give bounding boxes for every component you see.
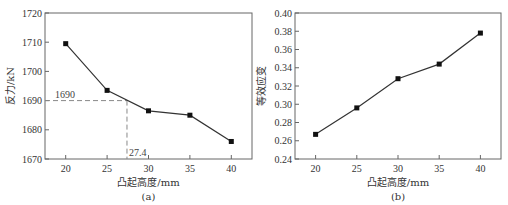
panel-a-x-tick-label: 35	[185, 163, 195, 174]
panel-b-y-tick-label: 0.32	[275, 81, 293, 92]
panel-a-series-line	[66, 44, 232, 142]
panel-b-data-point	[354, 105, 359, 110]
panel-a-y-tick-label: 1670	[22, 154, 42, 165]
panel-a-reference-hline-label: 1690	[55, 89, 75, 100]
figure: 1670168016901700171017202025303540169027…	[0, 0, 508, 205]
panel-a-data-point	[63, 41, 68, 46]
panel-b-series-line	[316, 33, 481, 134]
panel-b-y-tick-label: 0.26	[275, 135, 293, 146]
panel-b-data-point	[478, 31, 483, 36]
panel-b-panel-label: (b)	[391, 191, 405, 202]
panel-b-data-point	[313, 132, 318, 137]
panel-b-data-point	[396, 76, 401, 81]
panel-a-x-tick-label: 25	[102, 163, 112, 174]
panel-a-plot-frame	[45, 13, 252, 159]
panel-a-y-tick-label: 1700	[22, 66, 42, 77]
panel-b-y-tick-label: 0.38	[275, 26, 293, 37]
panel-b-plot-frame	[295, 13, 501, 159]
panel-a-data-point	[229, 139, 234, 144]
panel-b-x-axis-title: 凸起高度/mm	[367, 176, 430, 188]
panel-b-y-tick-label: 0.40	[275, 8, 293, 19]
panel-b-data-point	[437, 62, 442, 67]
panel-a-reference-vline-label: 27.4	[129, 147, 147, 158]
panel-a-data-point	[187, 113, 192, 118]
panel-a-x-tick-label: 20	[61, 163, 71, 174]
panel-b-y-axis-title: 等效应变	[255, 66, 267, 106]
panel-a-y-tick-label: 1690	[22, 95, 42, 106]
panel-a-y-axis-title: 反力/kN	[4, 67, 16, 105]
panel-a-y-tick-label: 1720	[22, 8, 42, 19]
panel-a-y-tick-label: 1710	[22, 37, 42, 48]
panel-a-x-axis-title: 凸起高度/mm	[117, 176, 180, 188]
panel-a-x-tick-label: 30	[144, 163, 154, 174]
panel-b-y-tick-label: 0.34	[275, 62, 293, 73]
panel-a-data-point	[105, 88, 110, 93]
panel-b-y-tick-label: 0.36	[275, 44, 293, 55]
panel-b-x-tick-label: 35	[434, 163, 444, 174]
panel-a-y-tick-label: 1680	[22, 124, 42, 135]
panel-b-y-tick-label: 0.28	[275, 117, 293, 128]
panel-b-x-tick-label: 25	[352, 163, 362, 174]
panel-b-y-tick-label: 0.24	[275, 154, 293, 165]
panel-b-y-tick-label: 0.30	[275, 99, 293, 110]
panel-b-x-tick-label: 30	[393, 163, 403, 174]
panel-a-data-point	[146, 108, 151, 113]
panel-b-x-tick-label: 20	[311, 163, 321, 174]
panel-a-x-tick-label: 40	[226, 163, 236, 174]
panel-b-x-tick-label: 40	[475, 163, 485, 174]
panel-a-panel-label: (a)	[142, 191, 156, 202]
